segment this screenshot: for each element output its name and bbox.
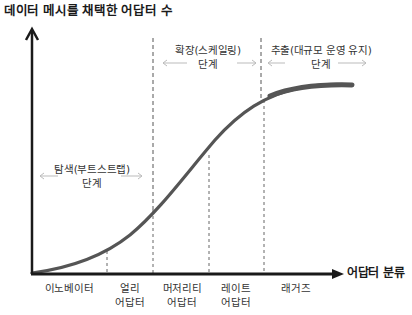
phase-label-extract: 추출(대규모 운영 유지) 단계 (266, 43, 376, 71)
category-line1: 레이트 (210, 281, 262, 295)
category-line1: 머저리티 (154, 281, 210, 295)
category-line1: 이노베이터 (40, 281, 98, 295)
category-line1: 래거즈 (268, 281, 324, 295)
x-axis (31, 269, 344, 279)
category-line2: 어답터 (210, 295, 262, 309)
phase-name: 탐색(부트스트랩) (52, 162, 132, 176)
category-line2: 어답터 (104, 295, 156, 309)
category-label-early-adopters: 얼리 어답터 (104, 281, 156, 309)
category-label-innovators: 이노베이터 (40, 281, 98, 295)
adoption-curve-diagram: 데이터 메시를 채택한 어답터 수 어답터 분류 탐색(부트스트랩) 단계 확장… (0, 0, 412, 315)
category-label-majority-adopters: 머저리티 어답터 (154, 281, 210, 309)
phase-suffix: 단계 (266, 57, 376, 71)
x-axis-arrow-icon (332, 269, 344, 279)
phase-suffix: 단계 (52, 176, 132, 190)
category-line1: 얼리 (104, 281, 156, 295)
phase-label-explore: 탐색(부트스트랩) 단계 (52, 162, 132, 190)
phase-suffix: 단계 (168, 57, 248, 71)
category-label-late-adopters: 레이트 어답터 (210, 281, 262, 309)
category-line2: 어답터 (154, 295, 210, 309)
y-axis (26, 29, 38, 274)
y-axis-title: 데이터 메시를 채택한 어답터 수 (4, 4, 172, 18)
phase-name: 추출(대규모 운영 유지) (266, 43, 376, 57)
x-axis-title: 어답터 분류 (347, 266, 404, 280)
phase-name: 확장(스케일링) (168, 43, 248, 57)
phase-label-expand: 확장(스케일링) 단계 (168, 43, 248, 71)
category-label-laggards: 래거즈 (268, 281, 324, 295)
